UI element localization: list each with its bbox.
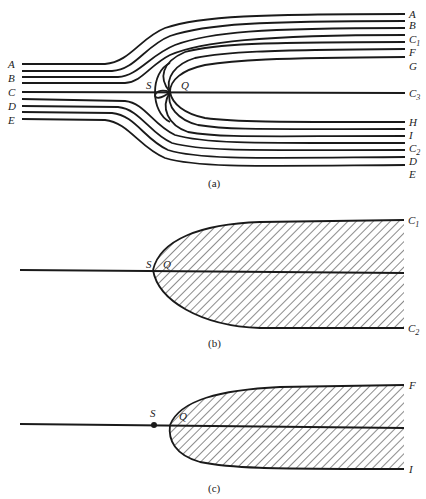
point-s-label-b: S [146,258,152,270]
right-label-c3: C3 [409,87,420,102]
right-label-c2-b: C2 [408,322,419,337]
streamline-f [169,49,405,92]
right-label-h: H [408,116,418,128]
caption-c: (c) [208,482,221,495]
left-label-c: C [8,86,16,98]
right-label-d: D [408,155,417,167]
right-label-b: B [409,19,416,31]
point-q-label-c: Q [179,410,187,422]
right-label-g: G [409,60,417,72]
left-label-b: B [8,72,15,84]
left-label-a: A [7,58,15,70]
streamline-g [170,57,405,92]
left-label-e: E [7,114,15,126]
panel-a: A B C D E S Q A B C1 F G C3 H I C2 D E (… [7,8,420,190]
right-label-i-c: I [408,463,414,475]
streamline-c-axis [22,92,405,93]
streamline-i [169,92,405,129]
caption-b: (b) [208,337,221,350]
stagnation-point-s [151,422,157,428]
streamline-h [170,92,405,122]
streamline-figure: A B C D E S Q A B C1 F G C3 H I C2 D E (… [0,0,426,499]
left-label-d: D [7,100,16,112]
point-q-label-b: Q [163,258,171,270]
panel-b: S Q C1 C2 (b) [20,214,419,350]
point-s-label-c: S [150,407,156,419]
panel-c: S Q F I (c) [20,379,416,495]
right-label-c1-b: C1 [408,214,419,229]
right-label-e: E [408,168,416,180]
point-q-label: Q [181,79,189,91]
caption-a: (a) [208,177,221,190]
point-s-label: S [146,79,152,91]
right-label-f-c: F [408,379,416,391]
right-label-f: F [408,46,416,58]
right-label-i: I [408,129,414,141]
